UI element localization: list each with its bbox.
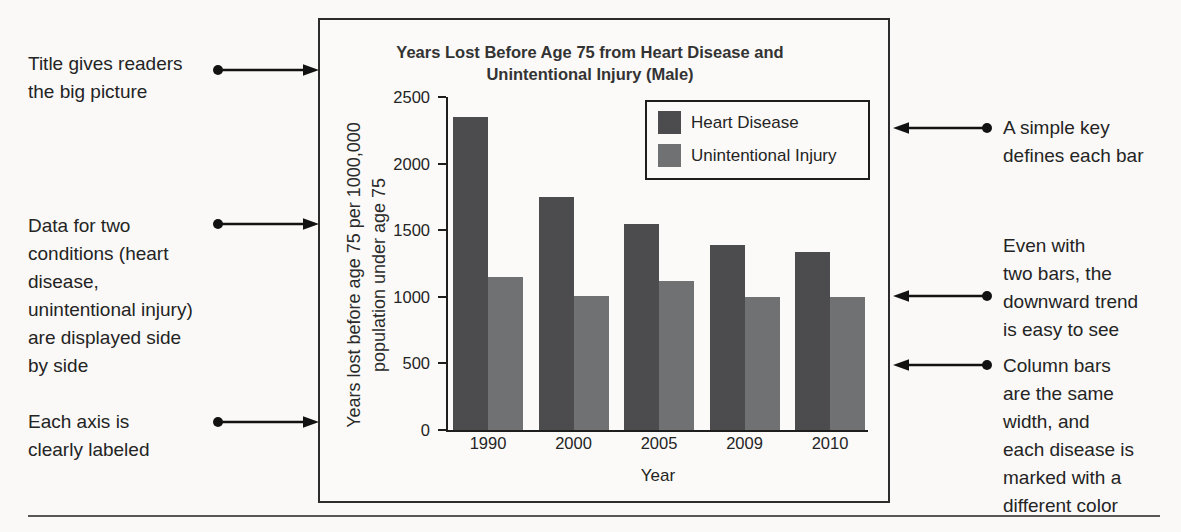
y-tick-mark bbox=[438, 296, 446, 298]
chart-panel: Years Lost Before Age 75 from Heart Dise… bbox=[318, 18, 890, 503]
heart-disease-bar-2010 bbox=[795, 252, 830, 431]
annotation-line: is easy to see bbox=[1003, 316, 1138, 344]
chart-title-line: Years Lost Before Age 75 from Heart Dise… bbox=[320, 41, 860, 63]
bar-group-2010 bbox=[795, 252, 865, 431]
annotation-line: two bars, the bbox=[1003, 260, 1138, 288]
legend-swatch-heart-disease bbox=[658, 111, 681, 134]
y-tick-label: 1000 bbox=[366, 287, 430, 307]
arrow-left-icon bbox=[893, 121, 993, 135]
heart-disease-bar-2009 bbox=[710, 245, 745, 430]
x-tick-label: 2010 bbox=[795, 434, 865, 453]
heart-disease-bar-2000 bbox=[539, 197, 574, 430]
y-axis-label-line: Years lost before age 75 per 1000,000 bbox=[342, 75, 367, 475]
annotation-line: Title gives readers bbox=[28, 50, 183, 78]
unintentional-injury-bar-2010 bbox=[830, 297, 865, 430]
bar-group-1990 bbox=[453, 117, 523, 430]
annotation-line: Column bars bbox=[1003, 352, 1134, 380]
arrow-right-icon bbox=[212, 415, 319, 429]
x-axis-label: Year bbox=[448, 466, 868, 486]
unintentional-injury-bar-2005 bbox=[659, 281, 694, 430]
annotation-line: downward trend bbox=[1003, 288, 1138, 316]
annotation-line: Even with bbox=[1003, 232, 1138, 260]
annotation-line: A simple key bbox=[1003, 114, 1144, 142]
y-tick-mark bbox=[438, 429, 446, 431]
annotation-key-note: A simple keydefines each bar bbox=[1003, 114, 1144, 170]
bar-group-2009 bbox=[710, 245, 780, 430]
annotation-line: Each axis is bbox=[28, 408, 149, 436]
y-tick-label: 2500 bbox=[366, 87, 430, 107]
legend-rows: Heart DiseaseUnintentional Injury bbox=[658, 111, 868, 167]
y-tick-mark bbox=[438, 163, 446, 165]
y-tick-mark bbox=[438, 362, 446, 364]
y-axis-label-line: population under age 75 bbox=[367, 75, 392, 475]
x-tick-label: 1990 bbox=[453, 434, 523, 453]
annotation-line: conditions (heart bbox=[28, 240, 193, 268]
heart-disease-bar-1990 bbox=[453, 117, 488, 430]
annotation-line: defines each bar bbox=[1003, 142, 1144, 170]
annotation-line: by side bbox=[28, 352, 193, 380]
arrow-left-icon bbox=[893, 289, 993, 303]
annotation-title-note: Title gives readersthe big picture bbox=[28, 50, 183, 106]
arrow-right-icon bbox=[212, 217, 319, 231]
y-tick-mark bbox=[438, 96, 446, 98]
annotation-line: disease, bbox=[28, 268, 193, 296]
legend-entry-heart-disease: Heart Disease bbox=[658, 111, 868, 134]
bottom-rule bbox=[28, 515, 1160, 517]
x-tick-label: 2005 bbox=[624, 434, 694, 453]
y-axis-label: Years lost before age 75 per 1000,000 po… bbox=[342, 75, 392, 475]
legend: Heart DiseaseUnintentional Injury bbox=[645, 100, 870, 180]
annotation-line: unintentional injury) bbox=[28, 296, 193, 324]
annotation-line: width, and bbox=[1003, 408, 1134, 436]
unintentional-injury-bar-2000 bbox=[574, 296, 609, 431]
legend-label: Unintentional Injury bbox=[691, 146, 837, 166]
annotation-line: each disease is bbox=[1003, 436, 1134, 464]
y-tick-label: 2000 bbox=[366, 154, 430, 174]
annotation-conditions-note: Data for twoconditions (heartdisease,uni… bbox=[28, 212, 193, 380]
legend-entry-unintentional-injury: Unintentional Injury bbox=[658, 144, 868, 167]
bar-group-2000 bbox=[539, 197, 609, 430]
annotation-line: Data for two bbox=[28, 212, 193, 240]
y-tick-label: 1500 bbox=[366, 220, 430, 240]
x-tick-label: 2009 bbox=[710, 434, 780, 453]
unintentional-injury-bar-1990 bbox=[488, 277, 523, 430]
y-tick-label: 0 bbox=[366, 420, 430, 440]
annotation-line: are displayed side bbox=[28, 324, 193, 352]
heart-disease-bar-2005 bbox=[624, 224, 659, 431]
annotation-axis-note: Each axis isclearly labeled bbox=[28, 408, 149, 464]
y-tick-label: 500 bbox=[366, 353, 430, 373]
figure-root: Title gives readersthe big picture Data … bbox=[0, 0, 1181, 532]
annotation-line: clearly labeled bbox=[28, 436, 149, 464]
chart-title: Years Lost Before Age 75 from Heart Dise… bbox=[320, 41, 860, 85]
arrow-left-icon bbox=[893, 358, 993, 372]
legend-label: Heart Disease bbox=[691, 113, 799, 133]
y-tick-mark bbox=[438, 229, 446, 231]
legend-swatch-unintentional-injury bbox=[658, 144, 681, 167]
annotation-trend-note: Even withtwo bars, thedownward trendis e… bbox=[1003, 232, 1138, 344]
annotation-bars-note: Column barsare the samewidth, andeach di… bbox=[1003, 352, 1134, 520]
x-tick-label: 2000 bbox=[539, 434, 609, 453]
bar-group-2005 bbox=[624, 224, 694, 431]
annotation-line: marked with a bbox=[1003, 464, 1134, 492]
x-axis-tick-labels: 19902000200520092010 bbox=[448, 434, 868, 453]
arrow-right-icon bbox=[212, 63, 319, 77]
unintentional-injury-bar-2009 bbox=[745, 297, 780, 430]
annotation-line: the big picture bbox=[28, 78, 183, 106]
annotation-line: are the same bbox=[1003, 380, 1134, 408]
chart-title-line: Unintentional Injury (Male) bbox=[320, 63, 860, 85]
